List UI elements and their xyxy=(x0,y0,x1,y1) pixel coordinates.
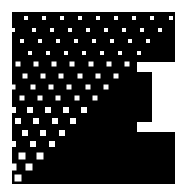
halftone-block-image xyxy=(0,0,186,188)
halftone-dot xyxy=(104,85,109,90)
halftone-dot xyxy=(107,62,112,67)
halftone-dot xyxy=(59,130,65,136)
halftone-dot xyxy=(81,107,87,113)
halftone-dot xyxy=(122,28,126,32)
halftone-dot xyxy=(100,51,104,55)
halftone-dot xyxy=(33,118,39,124)
halftone-dot xyxy=(63,107,69,113)
halftone-dot xyxy=(37,153,44,160)
halftone-dot xyxy=(96,16,100,20)
halftone-dot xyxy=(110,39,114,43)
halftone-dot xyxy=(34,62,39,67)
halftone-dot xyxy=(32,28,36,32)
halftone-dot xyxy=(114,16,118,20)
halftone-dot xyxy=(50,28,54,32)
halftone-dot xyxy=(89,62,94,67)
halftone-dot xyxy=(118,51,122,55)
halftone-dot xyxy=(24,16,28,20)
halftone-dot xyxy=(82,51,86,55)
halftone-dot xyxy=(86,28,90,32)
halftone-dot xyxy=(169,16,173,20)
halftone-dot xyxy=(74,39,78,43)
halftone-dot xyxy=(78,74,83,79)
halftone-dot xyxy=(59,74,64,79)
halftone-dot xyxy=(26,164,33,171)
halftone-graphic xyxy=(0,0,186,188)
halftone-dot xyxy=(20,96,25,101)
halftone-dot xyxy=(128,39,132,43)
halftone-dot xyxy=(15,118,21,124)
halftone-dot xyxy=(125,62,130,67)
halftone-dot xyxy=(45,107,51,113)
halftone-dot xyxy=(56,39,60,43)
halftone-dot xyxy=(60,16,64,20)
halftone-dot xyxy=(46,51,50,55)
halftone-dot xyxy=(56,96,61,101)
halftone-dot xyxy=(70,118,76,124)
halftone-dot xyxy=(132,16,136,20)
halftone-dot xyxy=(75,96,80,101)
halftone-dot xyxy=(70,62,75,67)
halftone-dot xyxy=(104,28,108,32)
halftone-dot xyxy=(27,107,33,113)
halftone-dot xyxy=(49,85,54,90)
halftone-dot xyxy=(158,28,162,32)
halftone-dot xyxy=(114,74,119,79)
halftone-dot xyxy=(22,130,28,136)
halftone-dot xyxy=(140,28,144,32)
halftone-dot xyxy=(93,96,98,101)
halftone-dot xyxy=(137,51,141,55)
halftone-dot xyxy=(30,141,36,147)
halftone-dot xyxy=(92,39,96,43)
halftone-dot xyxy=(20,39,24,43)
halftone-dot xyxy=(146,39,150,43)
halftone-dot xyxy=(38,39,42,43)
halftone-dot xyxy=(41,74,46,79)
halftone-dot xyxy=(49,141,55,147)
halftone-dot xyxy=(42,16,46,20)
halftone-dot xyxy=(96,74,101,79)
halftone-dot xyxy=(64,51,68,55)
halftone-dot xyxy=(40,130,46,136)
halftone-dot xyxy=(19,153,26,160)
halftone-dot xyxy=(38,96,43,101)
halftone-dot xyxy=(67,85,72,90)
halftone-dot xyxy=(31,85,36,90)
halftone-dot xyxy=(78,16,82,20)
halftone-dot xyxy=(23,74,28,79)
halftone-dot xyxy=(15,175,22,182)
halftone-dot xyxy=(52,62,57,67)
halftone-dot xyxy=(28,51,32,55)
halftone-dot xyxy=(150,16,154,20)
halftone-dot xyxy=(68,28,72,32)
halftone-dot xyxy=(52,118,58,124)
halftone-dot xyxy=(86,85,91,90)
halftone-dot xyxy=(16,62,21,67)
